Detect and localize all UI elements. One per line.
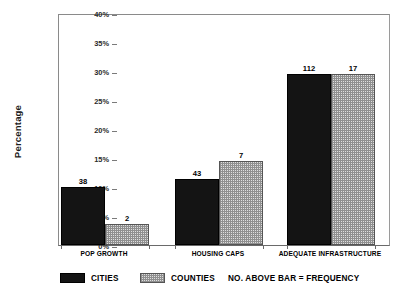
y-tick-label: 35% [94, 39, 109, 48]
x-axis-tick-mark [61, 245, 62, 249]
legend-item-cities: CITIES [60, 271, 119, 285]
y-axis-title: Percentage [12, 82, 23, 182]
bar-counties-3[interactable] [331, 74, 375, 245]
x-axis-tick-mark [263, 245, 264, 249]
x-axis-tick-mark [375, 245, 376, 249]
y-tick-label: 20% [94, 126, 109, 135]
y-tick-mark [112, 102, 117, 103]
bar-value-label: 7 [239, 151, 243, 160]
dotted-grey-swatch-icon [140, 273, 165, 283]
legend-label-cities: CITIES [91, 274, 119, 283]
bar-value-label: 43 [193, 169, 201, 178]
plot-area: 40%35%30%25%20%15%10%5%0% 38243711217 [58, 14, 390, 246]
bar-cities-3[interactable] [287, 74, 331, 245]
y-tick-label: 40% [94, 10, 109, 19]
bar-cities-2[interactable] [175, 179, 219, 245]
x-axis-label-1: POP GROWTH [80, 250, 127, 257]
y-tick-label: 15% [94, 155, 109, 164]
legend-note: NO. ABOVE BAR = FREQUENCY [228, 271, 359, 285]
legend-label-counties: COUNTIES [171, 274, 215, 283]
bar-cities-1[interactable] [61, 187, 105, 245]
x-axis-tick-mark [149, 245, 150, 249]
bar-value-label: 2 [125, 214, 129, 223]
bar-counties-1[interactable] [105, 224, 149, 245]
y-tick-mark [112, 15, 117, 16]
y-tick-mark [112, 218, 117, 219]
bar-value-label: 17 [349, 64, 357, 73]
bar-counties-2[interactable] [219, 161, 263, 245]
y-tick-mark [112, 160, 117, 161]
x-axis-tick-mark [287, 245, 288, 249]
y-tick-mark [112, 131, 117, 132]
y-tick-mark [112, 189, 117, 190]
y-tick-mark [112, 44, 117, 45]
x-axis-tick-mark [175, 245, 176, 249]
y-tick-mark [112, 247, 117, 248]
y-tick-label: 25% [94, 97, 109, 106]
bar-value-label: 112 [303, 64, 315, 73]
y-tick-label: 30% [94, 68, 109, 77]
chart-legend: CITIES COUNTIES NO. ABOVE BAR = FREQUENC… [0, 271, 405, 291]
y-tick-mark [112, 73, 117, 74]
bar-value-label: 38 [79, 177, 87, 186]
legend-item-counties: COUNTIES [140, 271, 215, 285]
solid-black-swatch-icon [60, 273, 85, 283]
bar-chart-figure: Percentage 40%35%30%25%20%15%10%5%0% 382… [0, 0, 405, 297]
x-axis-label-3: ADEQUATE INFRASTRUCTURE [279, 250, 382, 257]
x-axis-label-2: HOUSING CAPS [192, 250, 245, 257]
